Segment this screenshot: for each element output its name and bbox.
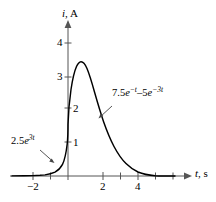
left-eq-exponent: 3t: [29, 133, 35, 142]
left-label-leader-arrow: [40, 150, 55, 163]
right-eq-term1-coefficient: 7.5: [112, 87, 125, 98]
annotation-left-equation: 2.5e3t: [11, 136, 35, 147]
y-axis-title: i, A: [62, 8, 78, 19]
x-tick-label-4: 4: [135, 181, 141, 192]
y-tick-label-2: 2: [73, 103, 79, 114]
left-eq-coefficient: 2.5: [11, 135, 24, 146]
x-tick-label-minus2: −2: [27, 181, 39, 192]
y-tick-label-3: 3: [57, 71, 63, 82]
current-curve: [12, 62, 175, 176]
x-tick-label-2: 2: [100, 181, 106, 192]
right-eq-term1-exponent: −t: [130, 85, 137, 94]
right-eq-term2-exponent: −3t: [152, 85, 163, 94]
current-vs-time-figure: i, A t, s −2 2 4 1 2 3 4 2.5e3t 7.5e−t–5…: [0, 0, 216, 202]
y-tick-label-4: 4: [57, 37, 63, 48]
y-axis-unit: A: [70, 7, 78, 19]
y-tick-label-1: 1: [73, 137, 79, 148]
annotation-right-equation: 7.5e−t–5e−3t: [112, 88, 163, 99]
x-axis-title: t, s: [195, 168, 208, 179]
plot-area: [0, 0, 216, 202]
x-axis-unit: s: [204, 167, 208, 179]
